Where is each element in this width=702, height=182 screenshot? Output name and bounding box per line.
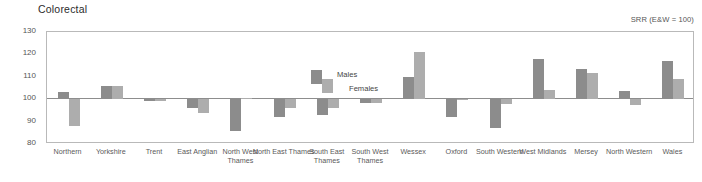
y-tick-label: 100 <box>10 94 36 102</box>
bar-females <box>457 99 468 100</box>
bar-females <box>673 79 684 99</box>
bar-group <box>58 32 80 142</box>
bar-males <box>274 99 285 117</box>
bar-group <box>274 32 296 142</box>
bar-group <box>446 32 468 142</box>
bar-males <box>360 99 371 102</box>
bar-females <box>241 98 252 99</box>
bar-females <box>587 73 598 99</box>
legend-label-females: Females <box>349 84 378 93</box>
bar-females <box>285 99 296 108</box>
bar-group <box>403 32 425 142</box>
bar-males <box>101 86 112 99</box>
bar-group <box>187 32 209 142</box>
bar-females <box>414 52 425 99</box>
bar-females <box>328 99 339 108</box>
x-tick-label: Wales <box>641 147 702 156</box>
bar-females <box>198 99 209 112</box>
bar-males <box>144 99 155 101</box>
chart-root: Colorectal SRR (E&W = 100) 1301201101009… <box>0 0 702 182</box>
bar-males <box>662 61 673 99</box>
bar-group <box>662 32 684 142</box>
bar-males <box>446 99 457 117</box>
bar-females <box>371 99 382 102</box>
y-tick-label: 80 <box>10 139 36 147</box>
bar-males <box>576 69 587 99</box>
bar-males <box>230 99 241 130</box>
bar-males <box>619 91 630 99</box>
bar-females <box>69 99 80 126</box>
bar-males <box>533 59 544 99</box>
bar-group <box>533 32 555 142</box>
bar-group <box>101 32 123 142</box>
page-title: Colorectal <box>38 3 87 15</box>
bar-females <box>630 99 641 105</box>
y-tick-label: 120 <box>10 49 36 57</box>
bar-females <box>501 99 512 103</box>
bar-group <box>619 32 641 142</box>
bar-females <box>112 86 123 99</box>
y-tick-label: 110 <box>10 72 36 80</box>
bar-females <box>544 90 555 99</box>
legend-label-males: Males <box>337 70 357 79</box>
chart-subtitle: SRR (E&W = 100) <box>631 15 694 24</box>
legend-swatch-females <box>322 79 333 93</box>
bar-males <box>403 77 414 99</box>
bar-males <box>490 99 501 128</box>
bar-group <box>144 32 166 142</box>
bar-males <box>58 92 69 99</box>
y-tick-label: 130 <box>10 27 36 35</box>
legend-swatch-males <box>311 70 322 84</box>
y-tick-label: 90 <box>10 117 36 125</box>
bar-group <box>490 32 512 142</box>
plot-area: Males Females <box>46 31 694 143</box>
bar-females <box>155 99 166 101</box>
bar-group <box>230 32 252 142</box>
bar-males <box>187 99 198 108</box>
bar-group <box>576 32 598 142</box>
bar-males <box>317 99 328 115</box>
